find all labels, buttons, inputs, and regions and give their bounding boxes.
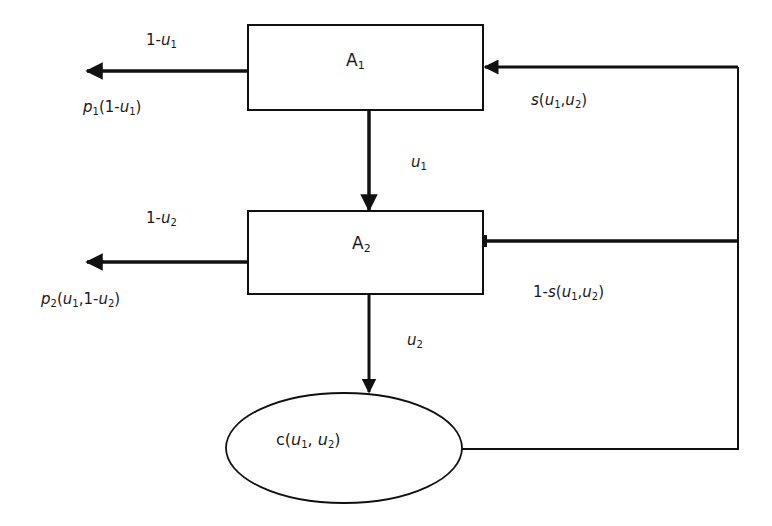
edge-label-1-minus-u1: 1-u1 xyxy=(146,33,177,50)
edge-label-p2: p2(u1,1-u2) xyxy=(41,292,120,309)
diagram-canvas xyxy=(0,0,772,526)
edge-label-p1: p1(1-u1) xyxy=(83,100,141,117)
node-a1-label: A1 xyxy=(346,52,365,71)
feedback-loop-line xyxy=(462,67,738,449)
node-c-ellipse xyxy=(226,393,462,503)
node-c-label: c(u1, u2) xyxy=(276,432,341,450)
edge-label-u2: u2 xyxy=(407,333,423,350)
node-a2-label: A2 xyxy=(352,235,371,254)
node-a1-box xyxy=(248,25,483,110)
edge-label-u1: u1 xyxy=(411,155,427,172)
edge-label-1-minus-u2: 1-u2 xyxy=(146,211,177,228)
edge-feedback-to-a2-tick xyxy=(483,235,487,247)
edge-label-1-minus-s: 1-s(u1,u2) xyxy=(533,285,604,302)
edge-label-s: s(u1,u2) xyxy=(531,93,587,110)
